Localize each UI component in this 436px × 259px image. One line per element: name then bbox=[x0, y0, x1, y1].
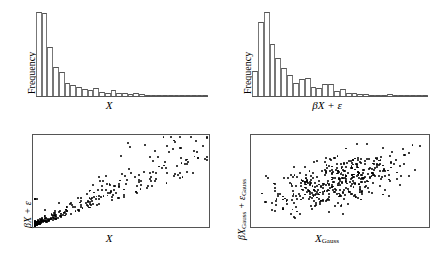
scatter-point bbox=[316, 160, 318, 162]
scatter-point bbox=[98, 176, 100, 178]
scatter-point bbox=[318, 180, 320, 182]
scatter-point bbox=[382, 194, 384, 196]
scatter-point bbox=[36, 198, 38, 200]
scatter-point bbox=[384, 189, 386, 191]
scatter-point bbox=[345, 178, 347, 180]
scatter-point bbox=[123, 196, 125, 198]
scatter-point bbox=[34, 224, 36, 226]
scatter-point bbox=[340, 205, 342, 207]
scatter-point bbox=[279, 193, 281, 195]
scatter-point bbox=[345, 148, 347, 150]
scatter-point bbox=[363, 169, 365, 171]
scatter-point bbox=[143, 171, 145, 173]
scatter-point bbox=[357, 197, 359, 199]
scatter-point bbox=[291, 185, 293, 187]
scatter-point bbox=[120, 155, 122, 157]
scatter-point bbox=[300, 182, 302, 184]
scatter-point bbox=[103, 195, 105, 197]
scatter-point bbox=[290, 174, 292, 176]
scatter-point bbox=[324, 174, 326, 176]
scatter-point bbox=[376, 164, 378, 166]
scatter-point bbox=[291, 199, 293, 201]
scatter-point bbox=[140, 184, 142, 186]
scatter-point bbox=[129, 146, 131, 148]
scatter-point bbox=[95, 198, 97, 200]
scatter-point bbox=[206, 136, 208, 138]
scatter-point bbox=[400, 175, 402, 177]
scatter-point bbox=[396, 172, 398, 174]
scatter-point bbox=[93, 192, 95, 194]
scatter-point bbox=[322, 193, 324, 195]
scatter-point bbox=[306, 191, 308, 193]
scatter-point bbox=[380, 159, 382, 161]
scatter-point bbox=[378, 160, 380, 162]
hist-bx-bars bbox=[252, 12, 428, 97]
scatter-point bbox=[354, 169, 356, 171]
scatter-point bbox=[368, 168, 370, 170]
scatter-point bbox=[197, 157, 199, 159]
scatter-point bbox=[404, 154, 406, 156]
scatter-point bbox=[57, 217, 59, 219]
scatter-point bbox=[286, 203, 288, 205]
scatter-point bbox=[292, 176, 294, 178]
scatter-point bbox=[179, 172, 181, 174]
scatter-point bbox=[408, 152, 410, 154]
scatter-point bbox=[334, 191, 336, 193]
scatter-point bbox=[34, 198, 36, 200]
scatter-point bbox=[111, 199, 113, 201]
scatter-point bbox=[149, 172, 151, 174]
scatter-point bbox=[395, 159, 397, 161]
scatter-point bbox=[295, 206, 297, 208]
scatter-point bbox=[136, 192, 138, 194]
scatter-point bbox=[353, 186, 355, 188]
scatter-point bbox=[403, 163, 405, 165]
scatter-point bbox=[164, 161, 166, 163]
scatter-point bbox=[298, 193, 300, 195]
scatter-point bbox=[180, 157, 182, 159]
scatter-point bbox=[66, 210, 68, 212]
scatter-point bbox=[155, 178, 157, 180]
scatter-point bbox=[193, 150, 195, 152]
scatter-point bbox=[174, 141, 176, 143]
scatter-right-ylabel: βXGauss + εGauss bbox=[236, 179, 248, 240]
scatter-point bbox=[380, 178, 382, 180]
scatter-point bbox=[304, 183, 306, 185]
scatter-point bbox=[367, 187, 369, 189]
scatter-point bbox=[368, 158, 370, 160]
scatter-point bbox=[319, 203, 321, 205]
scatter-point bbox=[109, 184, 111, 186]
scatter-point bbox=[315, 202, 317, 204]
scatter-point bbox=[360, 174, 362, 176]
scatter-point bbox=[309, 170, 311, 172]
scatter-point bbox=[374, 175, 376, 177]
scatter-point bbox=[113, 185, 115, 187]
scatter-point bbox=[360, 158, 362, 160]
scatter-point bbox=[390, 167, 392, 169]
scatter-point bbox=[328, 193, 330, 195]
scatter-point bbox=[337, 155, 339, 157]
scatter-point bbox=[186, 163, 188, 165]
scatter-point bbox=[91, 200, 93, 202]
scatter-point bbox=[344, 194, 346, 196]
scatter-point bbox=[163, 136, 165, 138]
scatter-point bbox=[348, 160, 350, 162]
scatter-point bbox=[361, 174, 363, 176]
scatter-point bbox=[330, 159, 332, 161]
scatter-point bbox=[304, 166, 306, 168]
scatter-point bbox=[107, 195, 109, 197]
scatter-point bbox=[123, 189, 125, 191]
scatter-point bbox=[362, 172, 364, 174]
scatter-point bbox=[166, 172, 168, 174]
scatter-point bbox=[342, 213, 344, 215]
scatter-point bbox=[346, 162, 348, 164]
scatter-point bbox=[113, 189, 115, 191]
scatter-point bbox=[121, 173, 123, 175]
scatter-point bbox=[324, 161, 326, 163]
scatter-point bbox=[373, 160, 375, 162]
scatter-point bbox=[182, 176, 184, 178]
scatter-point bbox=[313, 161, 315, 163]
scatter-point bbox=[322, 187, 324, 189]
scatter-point bbox=[286, 199, 288, 201]
scatter-point bbox=[274, 187, 276, 189]
scatter-point bbox=[166, 182, 168, 184]
